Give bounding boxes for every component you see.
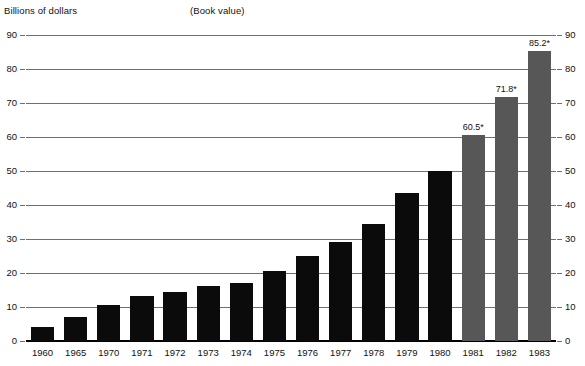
x-axis-tick-label-1975: 1975	[264, 348, 285, 358]
x-axis-tick-label-1980: 1980	[429, 348, 450, 358]
y-tick-left	[20, 239, 25, 240]
y-tick-left	[20, 103, 25, 104]
y-axis-tick-label-right: 40	[565, 200, 576, 210]
bar-value-label-1981: 60.5*	[463, 123, 484, 132]
bar-1975: 1975	[263, 271, 286, 341]
y-tick-left	[20, 273, 25, 274]
y-axis-tick-label-right: 90	[565, 30, 576, 40]
bar-1970: 1970	[97, 305, 120, 341]
bar-1979: 1979	[395, 193, 418, 341]
gridline	[26, 69, 556, 70]
y-axis-tick-label-left: 50	[6, 166, 17, 176]
x-axis-tick-label-1970: 1970	[98, 348, 119, 358]
y-axis-title: Billions of dollars	[4, 5, 77, 16]
bar-1981: 60.5*1981	[462, 135, 485, 341]
x-axis-tick-label-1971: 1971	[131, 348, 152, 358]
x-axis-tick-label-1973: 1973	[198, 348, 219, 358]
bar-1980: 1980	[428, 171, 451, 341]
y-tick-right	[557, 171, 562, 172]
y-axis-tick-label-left: 60	[6, 132, 17, 142]
y-tick-right	[557, 273, 562, 274]
y-axis-tick-label-right: 20	[565, 268, 576, 278]
y-tick-left	[20, 171, 25, 172]
y-axis-tick-label-left: 20	[6, 268, 17, 278]
bar-1983: 85.2*1983	[528, 51, 551, 341]
bar-1976: 1976	[296, 256, 319, 341]
gridline	[26, 103, 556, 104]
y-tick-right	[557, 103, 562, 104]
y-axis-tick-label-right: 60	[565, 132, 576, 142]
bar-1973: 1973	[197, 286, 220, 341]
bar-1971: 1971	[130, 296, 153, 341]
x-axis-tick-label-1978: 1978	[363, 348, 384, 358]
y-tick-left	[20, 341, 25, 342]
y-axis-tick-label-right: 0	[565, 336, 570, 346]
y-axis-tick-label-right: 10	[565, 302, 576, 312]
x-axis-tick-label-1965: 1965	[65, 348, 86, 358]
bar-1974: 1974	[230, 283, 253, 341]
y-tick-right	[557, 69, 562, 70]
x-axis-tick-label-1974: 1974	[231, 348, 252, 358]
y-axis-tick-label-left: 90	[6, 30, 17, 40]
x-axis-tick-label-1979: 1979	[396, 348, 417, 358]
x-axis-tick-label-1982: 1982	[496, 348, 517, 358]
x-axis-tick-label-1972: 1972	[164, 348, 185, 358]
bar-1960: 1960	[31, 327, 54, 341]
y-tick-left	[20, 35, 25, 36]
x-axis-tick-label-1976: 1976	[297, 348, 318, 358]
y-tick-right	[557, 35, 562, 36]
y-tick-right	[557, 205, 562, 206]
bar-1972: 1972	[163, 292, 186, 341]
y-axis-tick-label-right: 30	[565, 234, 576, 244]
y-axis-tick-label-right: 50	[565, 166, 576, 176]
y-axis-tick-label-left: 70	[6, 98, 17, 108]
y-axis-tick-label-left: 30	[6, 234, 17, 244]
y-tick-right	[557, 341, 562, 342]
bar-chart: Billions of dollars (Book value) 0102030…	[0, 0, 585, 366]
y-axis-tick-label-left: 80	[6, 64, 17, 74]
bar-value-label-1982: 71.8*	[496, 85, 517, 94]
y-tick-right	[557, 307, 562, 308]
y-tick-left	[20, 307, 25, 308]
x-axis-tick-label-1960: 1960	[32, 348, 53, 358]
gridline	[26, 35, 556, 36]
y-axis-tick-label-right: 80	[565, 64, 576, 74]
plot-area: 0102030405060708090 0102030405060708090 …	[26, 35, 556, 341]
y-tick-right	[557, 239, 562, 240]
y-tick-left	[20, 137, 25, 138]
y-axis-tick-label-left: 0	[12, 336, 17, 346]
bar-1978: 1978	[362, 224, 385, 341]
bar-value-label-1983: 85.2*	[529, 39, 550, 48]
y-axis-tick-label-left: 10	[6, 302, 17, 312]
x-axis-tick-label-1981: 1981	[463, 348, 484, 358]
bar-1977: 1977	[329, 242, 352, 341]
y-axis-tick-label-right: 70	[565, 98, 576, 108]
y-tick-left	[20, 69, 25, 70]
y-axis-tick-label-left: 40	[6, 200, 17, 210]
book-value-note: (Book value)	[190, 5, 245, 16]
x-axis-tick-label-1983: 1983	[529, 348, 550, 358]
x-axis-tick-label-1977: 1977	[330, 348, 351, 358]
bar-1982: 71.8*1982	[495, 97, 518, 341]
bar-1965: 1965	[64, 317, 87, 341]
y-tick-left	[20, 205, 25, 206]
y-tick-right	[557, 137, 562, 138]
